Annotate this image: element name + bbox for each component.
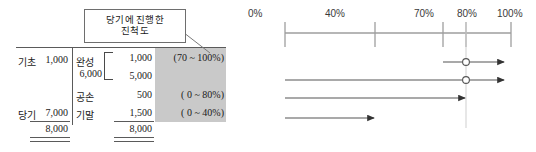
left-total-amount: 8,000 [28,123,68,134]
row-amount-beginning: 1,000 [28,54,68,65]
left-total-double-rule [30,137,70,142]
callout-line-1: 당기에 진행한 [106,15,164,26]
callout-line-2: 진척도 [121,26,149,37]
callout-box: 당기에 진행한 진척도 [84,9,186,43]
completed-split-top-amount: 1,000 [112,52,152,63]
progress-axis-chart: 0% 40% 70% 80% 100% [268,0,536,152]
range-spoilage: ( 0 ~ 80%) [157,89,224,100]
row-amount-spoilage: 500 [112,89,152,100]
diagram-canvas: 당기에 진행한 진척도 기초 1,000 당기 7,000 8,000 완성 6… [0,0,536,152]
row-amount-completed: 6,000 [74,68,102,79]
range-ending: ( 0 ~ 40%) [157,107,224,118]
row-amount-ending: 1,500 [112,107,152,118]
row-label-completed: 완성 [76,54,95,69]
row-amount-current: 7,000 [28,107,68,118]
chart-svg [268,0,536,152]
right-total-double-rule [114,137,154,142]
axis-tick-label-0: 0% [248,8,262,19]
right-total-amount: 8,000 [112,123,152,134]
marker-row-1 [463,59,470,66]
ledger-diagram: 당기에 진행한 진척도 기초 1,000 당기 7,000 8,000 완성 6… [0,0,268,152]
row-label-spoilage: 공손 [76,89,95,104]
right-total-rule [114,121,154,122]
marker-row-2 [463,77,470,84]
row-label-ending: 기말 [76,107,95,122]
completed-split-bottom-amount: 5,000 [112,70,152,81]
left-total-rule [30,121,70,122]
table-vertical-divider [72,47,73,125]
